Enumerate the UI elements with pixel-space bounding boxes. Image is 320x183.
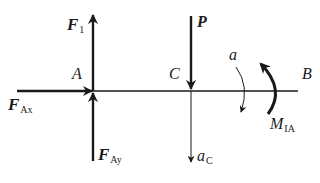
label-F1-main: F (67, 15, 78, 34)
label-FAy: FAy (98, 146, 122, 165)
label-point-C: C (169, 66, 180, 82)
angular-acceleration-arrow (236, 67, 245, 112)
label-MIA-sub: IA (284, 123, 295, 134)
label-FAx-main: F (8, 95, 19, 114)
free-body-diagram (0, 0, 320, 183)
inertia-moment-arrow (261, 64, 276, 114)
label-FAy-sub: Ay (110, 154, 121, 165)
label-MIA: MIA (270, 116, 295, 134)
label-aC: aC (197, 148, 213, 166)
label-P: P (197, 14, 207, 30)
label-aC-sub: C (206, 155, 213, 166)
label-aC-main: a (197, 147, 205, 164)
label-FAx-sub: Ax (20, 104, 32, 115)
label-angular-acceleration: a (229, 47, 237, 63)
label-FAx: FAx (8, 96, 33, 115)
label-point-B: B (302, 66, 312, 82)
label-FAy-main: F (98, 145, 109, 164)
label-MIA-main: M (270, 115, 283, 132)
label-F1: F1 (67, 16, 84, 35)
label-point-A: A (72, 66, 82, 82)
label-F1-sub: 1 (79, 24, 84, 35)
